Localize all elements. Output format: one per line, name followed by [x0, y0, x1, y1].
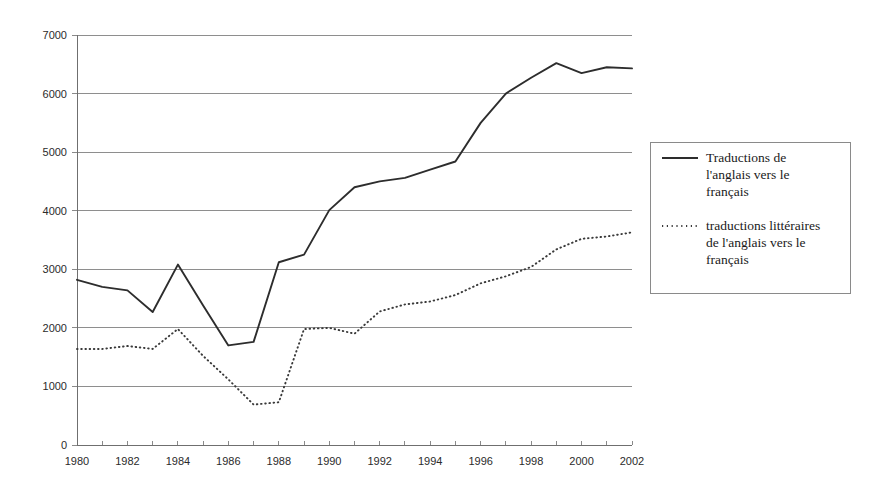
x-axis-tick-label: 1990: [317, 455, 341, 467]
x-axis-tick-label: 1984: [166, 455, 190, 467]
legend-entry-label: Traductions de: [706, 150, 786, 165]
y-axis-tick-label: 6000: [43, 88, 67, 100]
y-axis-labels-group: 01000200030004000500060007000: [43, 29, 67, 451]
chart-legend: Traductions del'anglais vers lefrançaist…: [650, 142, 850, 293]
x-axis-tick-label: 1980: [65, 455, 89, 467]
series-line-traductions-litteraires: [77, 232, 632, 404]
x-axis-tick-label: 2002: [620, 455, 644, 467]
y-tick-marks-group: [72, 35, 77, 445]
legend-entry-label: de l'anglais vers le: [706, 235, 806, 250]
line-chart: 01000200030004000500060007000 1980198219…: [0, 0, 871, 496]
x-axis-tick-label: 1992: [367, 455, 391, 467]
chart-container: 01000200030004000500060007000 1980198219…: [0, 0, 871, 496]
x-axis-tick-label: 1986: [216, 455, 240, 467]
x-axis-tick-label: 1994: [418, 455, 442, 467]
y-axis-tick-label: 1000: [43, 380, 67, 392]
legend-entry-label: l'anglais vers le: [706, 167, 789, 182]
x-axis-tick-label: 1996: [468, 455, 492, 467]
x-axis-tick-label: 1998: [519, 455, 543, 467]
y-axis-tick-label: 5000: [43, 146, 67, 158]
y-axis-tick-label: 0: [61, 439, 67, 451]
legend-entry-label: français: [706, 184, 749, 199]
legend-entry-label: français: [706, 252, 749, 267]
y-axis-tick-label: 3000: [43, 263, 67, 275]
series-line-traductions-anglais-francais: [77, 63, 632, 345]
x-tick-marks-group: [77, 441, 632, 445]
x-axis-tick-label: 1982: [115, 455, 139, 467]
y-axis-tick-label: 2000: [43, 322, 67, 334]
y-axis-tick-label: 4000: [43, 205, 67, 217]
legend-entry-label: traductions littéraires: [706, 218, 820, 233]
x-axis-tick-label: 2000: [569, 455, 593, 467]
y-axis-tick-label: 7000: [43, 29, 67, 41]
x-axis-labels-group: 1980198219841986198819901992199419961998…: [65, 455, 644, 467]
x-axis-tick-label: 1988: [267, 455, 291, 467]
